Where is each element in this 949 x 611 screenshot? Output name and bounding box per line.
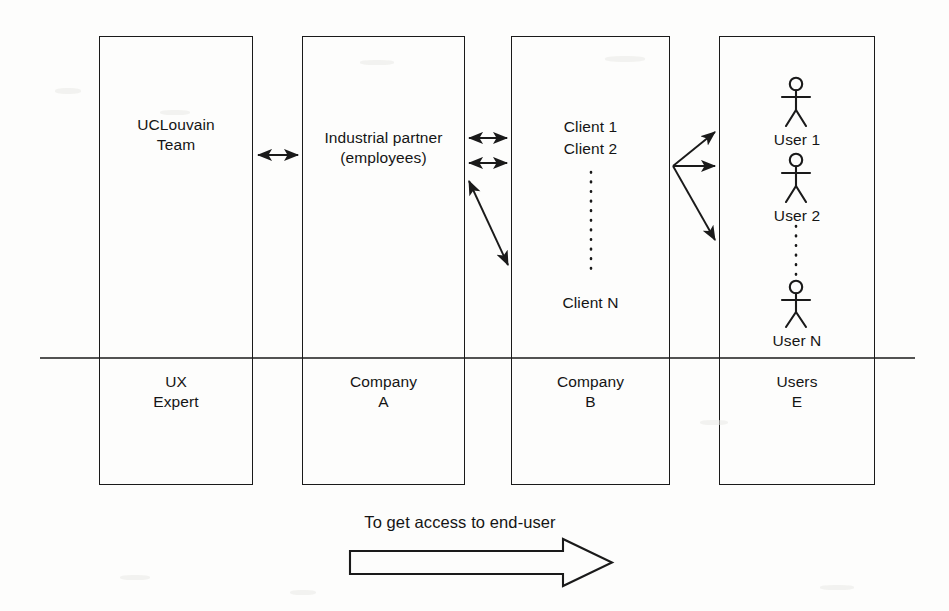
scan-noise-fleck xyxy=(55,88,81,94)
user-item-2-label: User 2 xyxy=(719,206,875,226)
scan-noise-fleck xyxy=(120,575,150,580)
column-box-users xyxy=(719,36,875,485)
scan-noise-fleck xyxy=(700,420,728,425)
stakeholder-chain-diagram: UCLouvain Team UX Expert Industrial part… xyxy=(0,0,949,611)
connection-client-user-n xyxy=(673,166,715,240)
client-item-2-label: Client 2 xyxy=(511,139,670,159)
flow-arrow-shape xyxy=(350,539,612,586)
flow-arrow-caption: To get access to end-user xyxy=(280,512,640,533)
scan-noise-fleck xyxy=(605,56,645,62)
user-item-n-label: User N xyxy=(719,331,875,351)
column-box-clients xyxy=(511,36,670,485)
column-box-industrial-partner xyxy=(302,36,465,485)
uclouvain-bottom-label: UX Expert xyxy=(99,372,253,412)
industrial-partner-bottom-label: Company A xyxy=(302,372,465,412)
scan-noise-fleck xyxy=(360,60,394,65)
users-bottom-label: Users E xyxy=(719,372,875,412)
client-item-1-label: Client 1 xyxy=(511,117,670,137)
connection-partner-client-n xyxy=(469,181,508,265)
client-item-n-label: Client N xyxy=(511,293,670,313)
scan-noise-fleck xyxy=(290,590,316,595)
scan-noise-fleck xyxy=(160,110,190,115)
clients-bottom-label: Company B xyxy=(511,372,670,412)
column-box-uclouvain xyxy=(99,36,253,485)
industrial-partner-top-label: Industrial partner (employees) xyxy=(302,128,465,168)
user-item-1-label: User 1 xyxy=(719,130,875,150)
uclouvain-top-label: UCLouvain Team xyxy=(99,115,253,155)
scan-noise-fleck xyxy=(820,585,854,590)
connection-client-user-1 xyxy=(673,132,715,166)
